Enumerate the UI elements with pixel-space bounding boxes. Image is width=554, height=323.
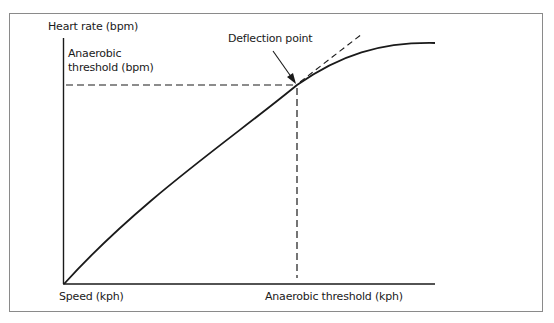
heart-rate-curve [64, 43, 435, 284]
x-axis-title: Speed (kph) [59, 290, 124, 304]
deflection-point-annotation: Deflection point [228, 32, 312, 46]
deflection-arrow-line [273, 51, 292, 78]
y-axis-title: Heart rate (bpm) [48, 20, 138, 34]
y-threshold-label-line2: threshold (bpm) [68, 61, 154, 75]
x-threshold-label: Anaerobic threshold (kph) [265, 290, 403, 304]
y-threshold-label-line1: Anaerobic [68, 47, 121, 61]
deflection-arrow-head-icon [287, 73, 296, 84]
